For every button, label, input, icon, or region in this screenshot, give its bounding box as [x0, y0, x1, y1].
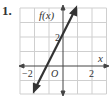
y-axis-label: f(x)	[39, 9, 55, 22]
x-axis-arrow-right-icon	[104, 64, 109, 68]
y-axis-arrow-down-icon	[61, 91, 65, 96]
y-tick-2: 2	[55, 32, 60, 43]
x-axis-label: x	[97, 52, 103, 64]
line-arrow-up-icon	[71, 8, 76, 15]
line-arrow-down-icon	[34, 84, 39, 91]
x-tick-neg2: −2	[22, 68, 33, 79]
y-axis-arrow-up-icon	[61, 5, 65, 10]
graph: f(x) x O −2 2 2	[0, 0, 111, 100]
axes	[19, 5, 109, 96]
origin-label: O	[51, 68, 58, 79]
x-tick-2: 2	[89, 68, 94, 79]
